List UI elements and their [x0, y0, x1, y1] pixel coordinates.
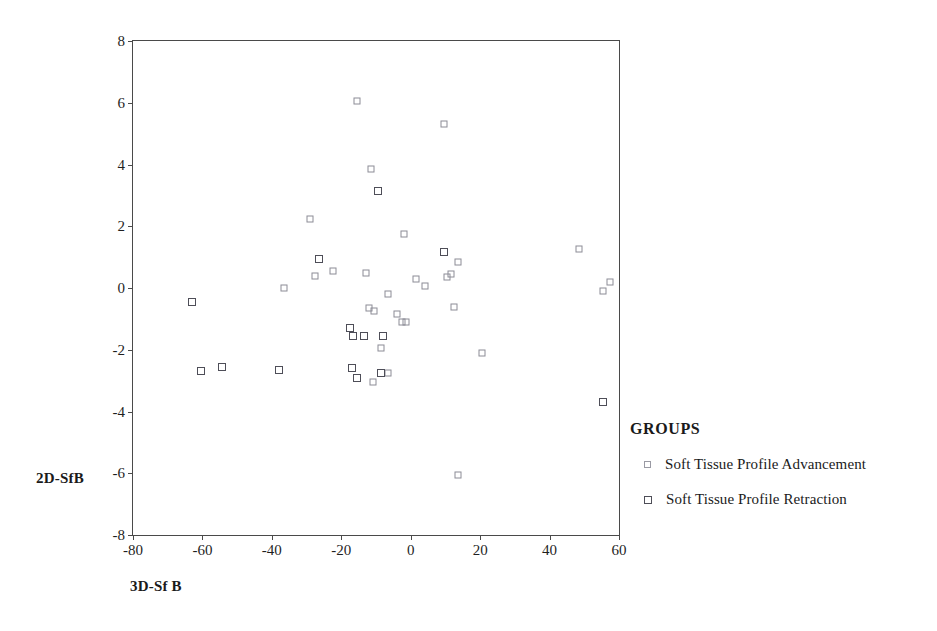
x-tick-mark — [133, 535, 134, 540]
data-point-advancement — [353, 98, 360, 105]
legend-swatch-retraction-icon — [644, 496, 652, 504]
data-point-retraction — [599, 398, 607, 406]
data-point-advancement — [440, 121, 447, 128]
data-point-advancement — [447, 271, 454, 278]
x-tick-label: 20 — [473, 542, 488, 559]
data-point-retraction — [360, 332, 368, 340]
y-tick-mark — [128, 165, 133, 166]
legend-item-retraction[interactable]: Soft Tissue Profile Retraction — [630, 491, 930, 508]
y-tick-label: -8 — [113, 527, 126, 544]
y-tick-label: 8 — [118, 33, 126, 50]
data-point-advancement — [600, 288, 607, 295]
x-tick-label: -20 — [331, 542, 351, 559]
y-axis-title: 2D-SfB — [36, 470, 84, 487]
legend-items: Soft Tissue Profile AdvancementSoft Tiss… — [630, 456, 930, 508]
data-point-advancement — [454, 471, 461, 478]
data-point-advancement — [385, 369, 392, 376]
data-point-advancement — [412, 275, 419, 282]
x-tick-label: -80 — [123, 542, 143, 559]
scatter-plot-figure: 86420-2-4-6-8-80-60-40-200204060 2D-SfB … — [0, 0, 937, 631]
data-point-advancement — [307, 215, 314, 222]
data-point-advancement — [478, 349, 485, 356]
data-point-advancement — [329, 268, 336, 275]
data-point-retraction — [348, 364, 356, 372]
x-tick-mark — [272, 535, 273, 540]
data-point-advancement — [362, 269, 369, 276]
data-point-retraction — [218, 363, 226, 371]
x-tick-label: -40 — [262, 542, 282, 559]
x-tick-label: -60 — [192, 542, 212, 559]
x-tick-mark — [411, 535, 412, 540]
x-tick-label: 0 — [407, 542, 415, 559]
legend-swatch-advancement-icon — [644, 461, 651, 468]
y-tick-label: -4 — [113, 403, 126, 420]
data-point-advancement — [454, 258, 461, 265]
data-point-advancement — [312, 272, 319, 279]
x-tick-mark — [341, 535, 342, 540]
y-tick-mark — [128, 226, 133, 227]
x-tick-label: 60 — [612, 542, 627, 559]
legend-item-label: Soft Tissue Profile Retraction — [666, 491, 847, 508]
data-point-advancement — [421, 283, 428, 290]
y-tick-mark — [128, 473, 133, 474]
data-point-retraction — [374, 187, 382, 195]
data-point-advancement — [607, 278, 614, 285]
x-tick-mark — [480, 535, 481, 540]
data-point-retraction — [379, 332, 387, 340]
y-tick-label: 0 — [118, 280, 126, 297]
y-tick-mark — [128, 288, 133, 289]
y-tick-mark — [128, 103, 133, 104]
data-point-retraction — [353, 374, 361, 382]
data-point-advancement — [369, 379, 376, 386]
data-point-advancement — [367, 166, 374, 173]
y-tick-label: 6 — [118, 94, 126, 111]
data-points-layer — [133, 41, 619, 535]
x-axis-title: 3D-Sf B — [130, 578, 182, 595]
x-tick-mark — [202, 535, 203, 540]
data-point-advancement — [371, 308, 378, 315]
plot-area: 86420-2-4-6-8-80-60-40-200204060 — [132, 40, 620, 536]
data-point-retraction — [349, 332, 357, 340]
y-tick-label: 4 — [118, 156, 126, 173]
y-tick-mark — [128, 412, 133, 413]
legend-title: GROUPS — [630, 420, 930, 438]
y-tick-mark — [128, 350, 133, 351]
data-point-advancement — [281, 285, 288, 292]
y-tick-label: -2 — [113, 341, 126, 358]
data-point-advancement — [385, 291, 392, 298]
legend: GROUPS Soft Tissue Profile AdvancementSo… — [630, 420, 930, 526]
data-point-advancement — [451, 303, 458, 310]
data-point-retraction — [197, 367, 205, 375]
data-point-advancement — [402, 318, 409, 325]
y-tick-mark — [128, 41, 133, 42]
data-point-advancement — [576, 246, 583, 253]
data-point-retraction — [188, 298, 196, 306]
data-point-retraction — [377, 369, 385, 377]
x-tick-label: 40 — [542, 542, 557, 559]
x-tick-mark — [619, 535, 620, 540]
x-tick-mark — [550, 535, 551, 540]
data-point-advancement — [378, 345, 385, 352]
legend-item-label: Soft Tissue Profile Advancement — [665, 456, 866, 473]
data-point-advancement — [393, 311, 400, 318]
y-tick-label: -6 — [113, 465, 126, 482]
data-point-advancement — [400, 230, 407, 237]
data-point-retraction — [315, 255, 323, 263]
y-tick-label: 2 — [118, 218, 126, 235]
data-point-retraction — [440, 248, 448, 256]
data-point-retraction — [275, 366, 283, 374]
legend-item-advancement[interactable]: Soft Tissue Profile Advancement — [630, 456, 930, 473]
